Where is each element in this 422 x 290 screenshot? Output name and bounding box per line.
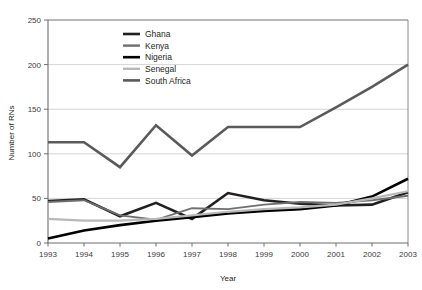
series-line-south-africa [48, 65, 408, 168]
x-tick-label: 2001 [327, 250, 345, 259]
legend-label-ghana: Ghana [145, 29, 171, 39]
legend-label-nigeria: Nigeria [145, 52, 172, 62]
series-line-ghana [48, 192, 408, 219]
y-axis-title: Number of RNs [7, 105, 16, 160]
chart-legend: GhanaKenyaNigeriaSenegalSouth Africa [123, 29, 191, 85]
x-tick-label: 1994 [75, 250, 93, 259]
chart-canvas: 050100150200250 199319941995199619971998… [0, 0, 422, 290]
x-tick-label: 1995 [111, 250, 129, 259]
y-tick-label: 250 [28, 16, 42, 25]
legend-label-south-africa: South Africa [145, 76, 191, 86]
x-tick-label: 1998 [219, 250, 237, 259]
y-tick-label: 50 [32, 194, 41, 203]
data-series-group [48, 65, 408, 239]
x-tick-label: 1993 [39, 250, 57, 259]
x-axis-title: Year [220, 274, 237, 283]
legend-label-kenya: Kenya [145, 41, 169, 51]
y-tick-label: 100 [28, 150, 42, 159]
y-tick-label: 0 [37, 239, 42, 248]
x-tick-label: 2002 [363, 250, 381, 259]
x-tick-label: 1997 [183, 250, 201, 259]
y-axis-ticks: 050100150200250 [28, 16, 48, 248]
x-tick-label: 1999 [255, 250, 273, 259]
y-tick-label: 150 [28, 105, 42, 114]
series-line-kenya [48, 196, 408, 220]
x-axis-ticks: 1993199419951996199719981999200020012002… [39, 243, 417, 259]
x-tick-label: 2000 [291, 250, 309, 259]
gridlines-group [48, 20, 408, 198]
line-chart: 050100150200250 199319941995199619971998… [0, 0, 422, 290]
y-tick-label: 200 [28, 61, 42, 70]
x-tick-label: 1996 [147, 250, 165, 259]
x-tick-label: 2003 [399, 250, 417, 259]
legend-label-senegal: Senegal [145, 64, 176, 74]
